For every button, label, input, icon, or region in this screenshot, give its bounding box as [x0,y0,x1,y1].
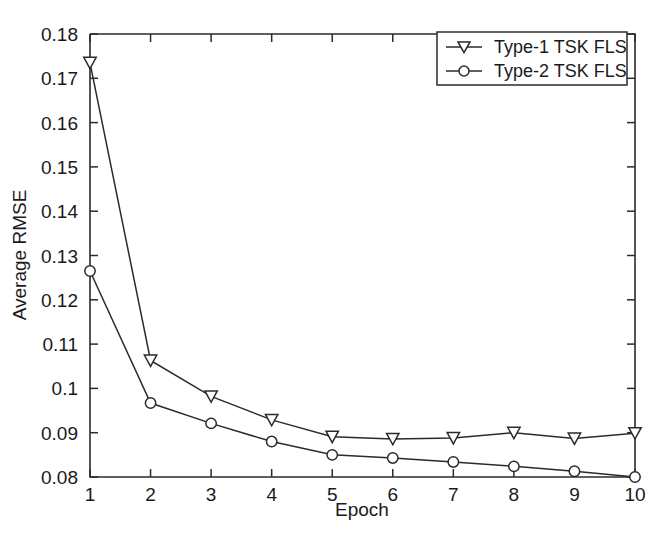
line-chart: 0.080.090.10.110.120.130.140.150.160.170… [0,0,671,540]
y-tick-label: 0.1 [52,378,78,399]
data-point-marker [145,398,155,408]
x-tick-label: 4 [266,484,277,505]
y-tick-label: 0.15 [41,157,78,178]
x-tick-label: 6 [387,484,398,505]
x-tick-label: 3 [206,484,217,505]
data-point-marker [630,472,640,482]
data-point-marker [509,461,519,471]
data-point-marker [569,466,579,476]
x-tick-label: 2 [145,484,156,505]
y-tick-label: 0.12 [41,290,78,311]
data-point-marker [388,453,398,463]
x-tick-label: 7 [448,484,459,505]
x-tick-label: 8 [509,484,520,505]
y-tick-label: 0.11 [42,334,78,355]
x-tick-label: 10 [624,484,645,505]
y-tick-label: 0.17 [41,68,78,89]
y-tick-label: 0.09 [41,423,78,444]
data-point-marker [206,418,216,428]
data-point-marker [85,266,95,276]
y-axis-title: Average RMSE [9,190,30,321]
y-tick-label: 0.16 [41,113,78,134]
chart-figure: 0.080.090.10.110.120.130.140.150.160.170… [0,0,671,540]
legend-entry-label: Type-2 TSK FLS [494,61,627,81]
x-axis-title: Epoch [335,499,389,520]
y-tick-label: 0.14 [41,201,78,222]
chart-legend[interactable]: Type-1 TSK FLSType-2 TSK FLS [437,32,627,85]
data-point-marker [448,457,458,467]
y-tick-label: 0.13 [41,246,78,267]
data-point-marker [266,436,276,446]
circle-marker-icon [459,66,469,76]
y-tick-label: 0.18 [41,24,78,45]
legend-entry-label: Type-1 TSK FLS [494,37,627,57]
y-tick-label: 0.08 [41,467,78,488]
x-tick-label: 9 [569,484,580,505]
x-tick-label: 1 [85,484,96,505]
data-point-marker [327,450,337,460]
